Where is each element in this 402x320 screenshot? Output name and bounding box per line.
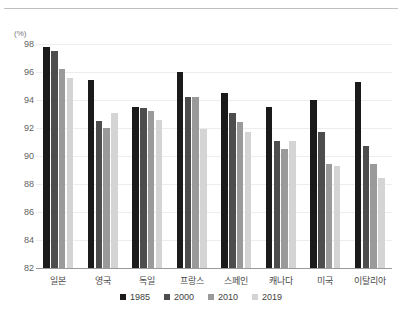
x-axis-category-label: 일본 [50,274,66,287]
bar-group [355,44,385,268]
y-axis-tick-label: 98 [12,39,34,49]
bar [96,121,103,268]
legend-label: 2010 [218,292,238,302]
bar [229,113,236,268]
chart-legend: 1985200020102019 [0,292,402,302]
bar [318,132,325,268]
bar [43,47,50,268]
bar [326,164,333,268]
x-axis-category-label: 독일 [139,274,155,287]
legend-swatch-icon [208,294,214,300]
y-axis-tick-label: 88 [12,179,34,189]
x-axis-category-label: 영국 [95,274,111,287]
legend-label: 2000 [174,292,194,302]
legend-swatch-icon [164,294,170,300]
legend-item: 2010 [208,292,238,302]
bar [103,128,110,268]
x-axis-category-label: 프랑스 [180,274,204,287]
bar [274,141,281,268]
legend-label: 2019 [262,292,282,302]
x-axis-category-label: 스페인 [224,274,248,287]
plot-area [36,44,392,269]
bar [156,120,163,268]
legend-item: 2019 [252,292,282,302]
bar [289,141,296,268]
bar [177,72,184,268]
y-axis-tick-label: 92 [12,123,34,133]
legend-item: 1985 [120,292,150,302]
bar-group [88,44,118,268]
bar [370,164,377,268]
y-axis-unit-label: (%) [14,29,26,38]
bar [140,108,147,268]
bar [67,78,74,268]
x-axis-category-label: 캐나다 [269,274,293,287]
legend-item: 2000 [164,292,194,302]
bar [221,93,228,268]
bar [355,82,362,268]
top-divider-rule [4,8,398,9]
bar-group [177,44,207,268]
bar-group [221,44,251,268]
y-axis-tick-label: 90 [12,151,34,161]
bar [51,51,58,268]
bar [334,166,341,268]
bar-group [132,44,162,268]
y-axis-tick-label: 96 [12,67,34,77]
bar [88,80,95,268]
bar [363,146,370,268]
bar-group [43,44,73,268]
bar [245,132,252,268]
bar [132,107,139,268]
bar-group [266,44,296,268]
y-axis-tick-label: 86 [12,207,34,217]
x-axis-category-label: 이탈리아 [354,274,386,287]
bar [310,100,317,268]
bar [200,129,207,268]
bar [111,113,118,268]
bar [192,97,199,268]
bar-group [310,44,340,268]
x-axis-line [36,268,392,269]
y-axis-tick-label: 82 [12,263,34,273]
chart-figure: (%) 828486889092949698 일본영국독일프랑스스페인캐나다미국… [0,0,402,320]
bar [237,122,244,268]
x-axis-category-label: 미국 [317,274,333,287]
bar [281,149,288,268]
legend-swatch-icon [120,294,126,300]
bar [148,111,155,268]
bar [59,69,66,268]
bar [266,107,273,268]
y-axis-tick-label: 84 [12,235,34,245]
bar [185,97,192,268]
bar [378,178,385,268]
legend-swatch-icon [252,294,258,300]
legend-label: 1985 [130,292,150,302]
y-axis-tick-label: 94 [12,95,34,105]
